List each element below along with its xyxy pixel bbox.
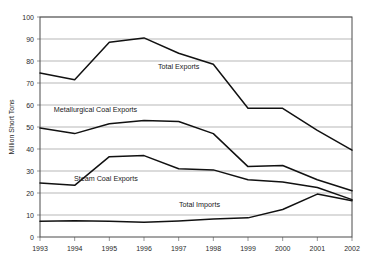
chart-background — [0, 0, 372, 265]
x-axis-tick-label: 1998 — [206, 245, 222, 252]
y-axis-tick-label: 70 — [26, 80, 34, 87]
y-axis-title: Million Short Tons — [8, 99, 15, 155]
series-label-total-exports: Total Exports — [158, 62, 200, 71]
x-axis-tick-label: 2000 — [275, 245, 291, 252]
x-axis-tick-label: 1994 — [67, 245, 83, 252]
series-label-total-imports: Total Imports — [179, 200, 221, 209]
x-axis-tick-label: 1997 — [171, 245, 187, 252]
y-axis-tick-label: 50 — [26, 124, 34, 131]
x-axis-tick-label: 1999 — [240, 245, 256, 252]
y-axis-tick-label: 0 — [30, 234, 34, 241]
y-axis-tick-label: 20 — [26, 190, 34, 197]
x-axis-tick-label: 1993 — [32, 245, 48, 252]
y-axis-tick-label: 90 — [26, 36, 34, 43]
x-axis-tick-label: 2002 — [344, 245, 360, 252]
y-axis-tick-label: 10 — [26, 212, 34, 219]
chart-canvas: 0102030405060708090100 19931994199519961… — [0, 0, 372, 265]
x-axis-tick-label: 1995 — [102, 245, 118, 252]
series-label-steam-coal-exports: Steam Coal Exports — [74, 174, 138, 183]
y-axis-tick-label: 100 — [22, 14, 34, 21]
y-axis-tick-label: 80 — [26, 58, 34, 65]
series-label-metallurgical-coal-exports: Metallurgical Coal Exports — [54, 105, 138, 114]
coal-trade-line-chart: 0102030405060708090100 19931994199519961… — [0, 0, 372, 265]
y-axis-tick-label: 40 — [26, 146, 34, 153]
y-axis-tick-label: 60 — [26, 102, 34, 109]
x-axis-tick-label: 2001 — [310, 245, 326, 252]
y-axis-tick-label: 30 — [26, 168, 34, 175]
x-axis-tick-label: 1996 — [136, 245, 152, 252]
